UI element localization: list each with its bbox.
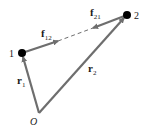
- position-vector-r2-arrow: [39, 18, 124, 113]
- particle-2-dot: [123, 11, 131, 19]
- particle-1-label: 1: [9, 48, 14, 59]
- origin-label: O: [30, 116, 37, 127]
- f12-label: f12: [41, 27, 52, 42]
- particle-1-dot: [18, 49, 26, 57]
- force-vector-f12-arrow: [22, 41, 58, 53]
- position-vector-r1-arrow: [23, 57, 39, 113]
- r2-label: r2: [88, 62, 97, 77]
- particle-2-label: 2: [134, 10, 139, 21]
- two-particle-force-diagram: 1 2 O f12 f21 r1 r2: [0, 0, 145, 135]
- r1-label: r1: [17, 74, 26, 89]
- line-of-action-dashed: [58, 28, 93, 41]
- f21-label: f21: [90, 6, 101, 21]
